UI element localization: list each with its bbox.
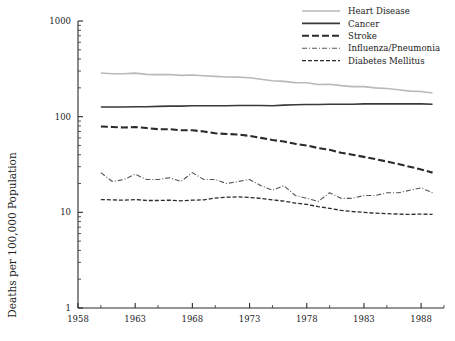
y-tick-label: 1 <box>66 303 71 313</box>
y-tick-label: 1000 <box>49 16 71 26</box>
x-tick-label: 1958 <box>67 314 89 324</box>
x-tick-label: 1983 <box>353 314 375 324</box>
x-tick-label: 1978 <box>296 314 318 324</box>
x-tick-label: 1973 <box>239 314 261 324</box>
x-tick-label: 1968 <box>182 314 204 324</box>
x-tick-label: 1963 <box>124 314 146 324</box>
chart-canvas: 1000100101 1958196319681973197819831988 … <box>0 0 455 341</box>
y-tick-label: 100 <box>55 112 71 122</box>
legend-label: Stroke <box>348 31 377 41</box>
legend-label: Diabetes Mellitus <box>348 56 425 66</box>
y-tick-label: 10 <box>60 207 71 217</box>
data-series-group <box>101 73 433 214</box>
chart-legend: Heart DiseaseCancerStrokeInfluenza/Pneum… <box>302 6 440 66</box>
series-line-diabetes-mellitus <box>101 197 433 215</box>
y-axis: 1000100101 <box>49 16 83 313</box>
y-axis-title: Deaths per 100,000 Population <box>6 152 18 318</box>
x-tick-label: 1988 <box>410 314 432 324</box>
series-line-influenza-pneumonia <box>101 173 433 202</box>
mortality-line-chart: 1000100101 1958196319681973197819831988 … <box>0 0 455 341</box>
x-axis: 1958196319681973197819831988 <box>67 303 444 324</box>
series-line-heart-disease <box>101 73 433 93</box>
legend-label: Influenza/Pneumonia <box>348 43 440 53</box>
series-line-cancer <box>101 104 433 107</box>
legend-label: Heart Disease <box>348 6 410 16</box>
legend-label: Cancer <box>348 19 380 29</box>
series-line-stroke <box>101 126 433 172</box>
